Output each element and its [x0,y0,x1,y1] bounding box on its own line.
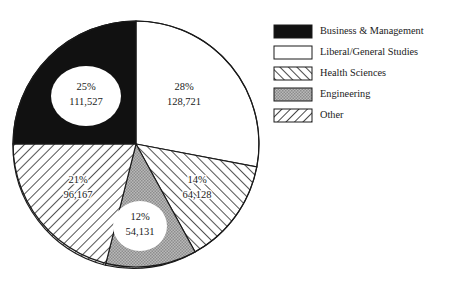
legend-item-engineering[interactable]: Engineering [274,88,370,101]
legend-label-business-management: Business & Management [320,25,424,36]
legend-label-liberal-general-studies: Liberal/General Studies [320,46,418,57]
legend-item-health-sciences[interactable]: Health Sciences [274,67,386,80]
pie-chart-canvas: 25% 111,527 28% 128,721 14% 64,128 12% 5… [0,0,452,282]
pie-label-other-percent: 21% [68,174,88,185]
legend-swatch-gray-stipple [274,88,312,101]
pie-label-engineering-value: 54,131 [126,226,155,237]
chart-legend: Business & Management Liberal/General St… [274,25,424,122]
legend-label-engineering: Engineering [320,88,370,99]
pie-label-health-sciences-value: 64,128 [183,189,212,200]
pie-label-engineering-percent: 12% [130,211,150,222]
legend-swatch-backward-hatch [274,109,312,122]
pie-chart-figure: 25% 111,527 28% 128,721 14% 64,128 12% 5… [0,0,452,282]
pie-label-liberal-general-studies-percent: 28% [174,81,194,92]
pie-label-business-management-value: 111,527 [69,96,102,107]
legend-item-business-management[interactable]: Business & Management [274,25,424,38]
legend-item-other[interactable]: Other [274,109,344,122]
pie-label-health-sciences-percent: 14% [187,174,207,185]
legend-swatch-solid-black [274,25,312,38]
legend-swatch-forward-hatch [274,67,312,80]
legend-label-other: Other [320,109,344,120]
legend-swatch-empty-white [274,46,312,59]
pie-label-other-value: 96,167 [64,189,93,200]
legend-item-liberal-general-studies[interactable]: Liberal/General Studies [274,46,418,59]
legend-label-health-sciences: Health Sciences [320,67,386,78]
pie-label-liberal-general-studies-value: 128,721 [167,96,201,107]
pie-label-business-management-percent: 25% [76,81,96,92]
pie-slice-liberal-general-studies[interactable] [136,21,259,167]
